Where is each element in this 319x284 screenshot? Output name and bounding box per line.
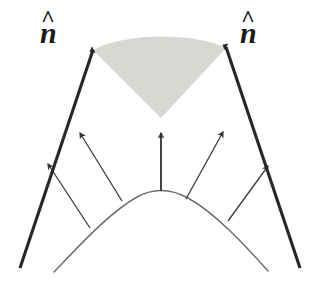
- outer-left-normal-arrow: [48, 164, 90, 228]
- outer-right-normal-arrow: [228, 166, 268, 221]
- right-normal-ray: [226, 47, 300, 268]
- right-normal-label: ^ n: [240, 18, 257, 48]
- surface-normal-arrow-group: [48, 132, 268, 228]
- left-normal-label: ^ n: [40, 18, 57, 48]
- left-normal-ray: [20, 50, 93, 268]
- right-hat-accent: ^: [241, 6, 255, 30]
- figure-canvas: ^ n ^ n: [0, 0, 319, 284]
- inner-right-normal-arrow: [186, 132, 223, 199]
- shaded-acceptance-cone: [93, 37, 226, 119]
- left-hat-accent: ^: [41, 6, 55, 30]
- inner-left-normal-arrow: [80, 133, 122, 201]
- curved-surface-arc: [54, 191, 268, 273]
